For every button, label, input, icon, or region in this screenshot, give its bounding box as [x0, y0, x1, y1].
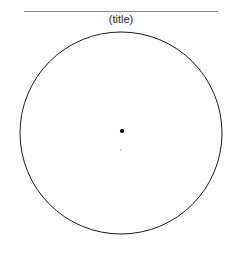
center-point-marker	[120, 129, 124, 133]
figure-background	[0, 0, 240, 255]
figure-canvas: (title)	[0, 0, 240, 255]
figure-container: (title)	[0, 0, 240, 255]
figure-title: (title)	[109, 13, 133, 25]
faint-point-marker	[120, 149, 122, 151]
